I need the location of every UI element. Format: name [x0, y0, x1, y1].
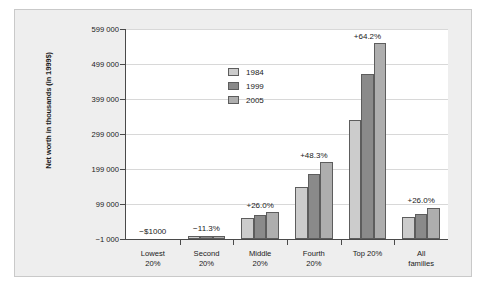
y-axis-line — [125, 29, 126, 240]
chart-figure: Net worth in thousands (in 1999$) 599 00… — [14, 9, 472, 277]
bar-2005-4 — [320, 162, 333, 239]
bar-annotation: +26.0% — [220, 201, 300, 210]
y-tick-label: 499 000 — [35, 60, 119, 69]
legend-label: 1984 — [246, 68, 264, 77]
gridline — [126, 134, 448, 135]
legend-item-1999: 1999 — [228, 80, 292, 92]
bar-2005-3 — [266, 212, 279, 239]
x-axis-label: Allfamilies — [386, 249, 456, 268]
y-tick-label: 399 000 — [35, 95, 119, 104]
x-tick-mark — [233, 240, 234, 245]
legend-swatch-icon — [228, 96, 239, 104]
legend-swatch-icon — [228, 82, 239, 90]
bar-annotation: +26.0% — [381, 196, 461, 205]
gridline — [126, 169, 448, 170]
y-tick-label: 199 000 — [35, 165, 119, 174]
chart-legend: 1984 1999 2005 — [228, 66, 292, 108]
y-tick-label: 599 000 — [35, 25, 119, 34]
x-tick-mark — [341, 240, 342, 245]
bar-1999-4 — [308, 174, 321, 239]
x-axis-label-line2: families — [386, 259, 456, 269]
bar-1999-3 — [254, 215, 267, 239]
legend-label: 2005 — [246, 96, 264, 105]
y-axis-tick-labels: 599 000 499 000 399 000 299 000 199 000 … — [31, 10, 119, 276]
x-tick-mark — [394, 240, 395, 245]
y-tick-label: −1 000 — [35, 235, 119, 244]
legend-item-1984: 1984 — [228, 66, 292, 78]
bar-annotation: +48.3% — [274, 151, 354, 160]
x-axis-label-line1: All — [386, 249, 456, 259]
gridline — [126, 64, 448, 65]
y-tick-label: 99 000 — [35, 200, 119, 209]
bar-2005-5 — [374, 43, 387, 239]
bar-1984-6 — [402, 217, 415, 239]
plot-area: −$1000−11.3%+26.0%+48.3%+64.2%+26.0% 198… — [126, 29, 448, 239]
y-tick-label: 299 000 — [35, 130, 119, 139]
bar-2005-6 — [427, 208, 440, 239]
legend-item-2005: 2005 — [228, 94, 292, 106]
legend-label: 1999 — [246, 82, 264, 91]
legend-swatch-icon — [228, 68, 239, 76]
x-tick-mark — [180, 240, 181, 245]
bar-1999-6 — [415, 214, 428, 239]
x-tick-mark — [287, 240, 288, 245]
bar-annotation: +64.2% — [328, 32, 408, 41]
bar-1999-5 — [361, 74, 374, 239]
gridline — [126, 29, 448, 30]
x-axis-label-line2: 20% — [279, 259, 349, 269]
bar-1984-5 — [349, 120, 362, 239]
bar-1984-4 — [295, 187, 308, 239]
bar-annotation: −11.3% — [167, 224, 247, 233]
